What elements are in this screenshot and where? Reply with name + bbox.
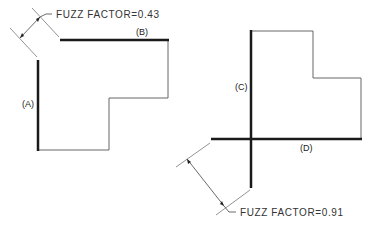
edge-label-c: (C) — [235, 82, 248, 92]
extension-line — [176, 143, 210, 167]
fuzz-factor-label-left: FUZZ FACTOR=0.43 — [56, 9, 160, 20]
extension-line — [32, 8, 59, 37]
left-outline — [38, 40, 168, 150]
right-figure: FUZZ FACTOR=0.91 (C) (D) — [176, 30, 362, 218]
edge-label-d: (D) — [300, 143, 313, 153]
dimension-line — [187, 159, 224, 206]
edge-label-b: (B) — [136, 27, 148, 37]
edge-label-a: (A) — [22, 99, 34, 109]
right-outline — [252, 31, 361, 139]
fuzz-factor-label-right: FUZZ FACTOR=0.91 — [240, 207, 344, 218]
arrow-icon — [20, 33, 24, 38]
left-figure: FUZZ FACTOR=0.43 (B) (A) — [10, 8, 169, 151]
leader-line — [40, 14, 46, 17]
arrow-icon — [36, 17, 40, 22]
extension-line — [10, 28, 37, 57]
diagram-svg: FUZZ FACTOR=0.43 (B) (A) FUZZ FACTOR=0.9… — [0, 0, 369, 227]
fuzz-factor-diagram: FUZZ FACTOR=0.43 (B) (A) FUZZ FACTOR=0.9… — [0, 0, 369, 227]
